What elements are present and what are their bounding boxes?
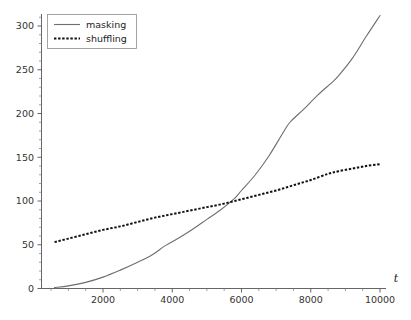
y-tick-label-100: 100 [16, 195, 34, 206]
series-line-shuffling [55, 164, 380, 242]
y-tick-label-200: 200 [16, 108, 34, 119]
line-chart: 050100150200250300 200040006000800010000… [0, 0, 411, 320]
data-series-group [55, 16, 380, 288]
y-tick-label-150: 150 [16, 152, 34, 163]
legend: masking shuffling [48, 15, 137, 49]
x-axis-major-ticks [103, 289, 380, 293]
y-tick-label-250: 250 [16, 64, 34, 75]
legend-label-masking: masking [86, 19, 126, 30]
x-tick-label-10000: 10000 [365, 294, 395, 305]
x-tick-label-8000: 8000 [299, 294, 323, 305]
y-tick-label-50: 50 [22, 239, 34, 250]
chart-container: 050100150200250300 200040006000800010000… [0, 0, 411, 320]
x-axis-label: t [394, 272, 399, 285]
x-tick-label-4000: 4000 [160, 294, 184, 305]
y-axis-major-ticks [38, 26, 42, 289]
x-axis-tick-labels: 200040006000800010000 [91, 294, 395, 305]
x-tick-label-6000: 6000 [229, 294, 253, 305]
axes-group [42, 14, 387, 289]
y-axis-tick-labels: 050100150200250300 [16, 20, 34, 294]
series-line-masking [55, 16, 380, 288]
y-tick-label-300: 300 [16, 20, 34, 31]
x-tick-label-2000: 2000 [91, 294, 115, 305]
y-tick-label-0: 0 [28, 283, 34, 294]
legend-label-shuffling: shuffling [86, 33, 127, 44]
